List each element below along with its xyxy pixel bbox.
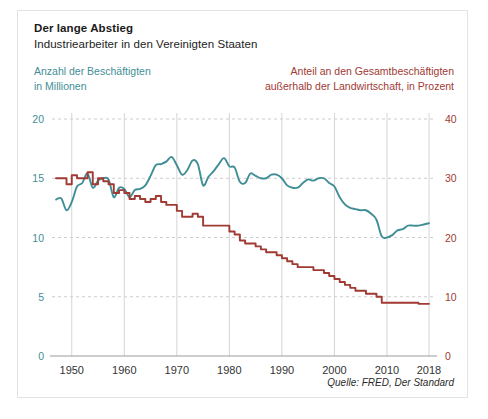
chart-subtitle: Industriearbeiter in den Vereinigten Sta…	[34, 38, 257, 50]
svg-text:2010: 2010	[375, 364, 399, 376]
left-axis-tick-labels: 05101520	[32, 113, 44, 362]
chart-title: Der lange Abstieg	[34, 22, 133, 34]
svg-text:10: 10	[445, 291, 457, 303]
svg-text:0: 0	[445, 350, 451, 362]
svg-text:20: 20	[32, 113, 44, 125]
x-axis-tick-labels: 19501960197019801990200020102018	[60, 364, 442, 376]
x-tick-marks	[72, 113, 429, 356]
svg-text:10: 10	[32, 232, 44, 244]
source-note: Quelle: FRED, Der Standard	[327, 377, 454, 388]
chart-figure-frame: Der lange Abstieg Industriearbeiter in d…	[17, 10, 468, 398]
svg-text:15: 15	[32, 172, 44, 184]
svg-text:20: 20	[445, 232, 457, 244]
legend-left-line2: in Millionen	[34, 79, 151, 94]
legend-right-line1: Anteil an den Gesamtbeschäftigten	[265, 64, 454, 79]
gridlines	[52, 119, 433, 297]
svg-text:1950: 1950	[60, 364, 84, 376]
series-lines	[56, 157, 429, 304]
legend-left-line1: Anzahl der Beschäftigten	[34, 64, 151, 79]
svg-text:1980: 1980	[217, 364, 241, 376]
right-axis-tick-labels: 010203040	[445, 113, 457, 362]
legend-left-axis: Anzahl der Beschäftigten in Millionen	[34, 64, 151, 94]
legend-right-axis: Anteil an den Gesamtbeschäftigten außerh…	[265, 64, 454, 94]
svg-text:1970: 1970	[165, 364, 189, 376]
svg-text:2000: 2000	[322, 364, 346, 376]
svg-text:2018: 2018	[417, 364, 441, 376]
svg-text:1960: 1960	[112, 364, 136, 376]
svg-text:30: 30	[445, 172, 457, 184]
svg-text:5: 5	[38, 291, 44, 303]
legend-right-line2: außerhalb der Landwirtschaft, in Prozent	[265, 79, 454, 94]
svg-text:0: 0	[38, 350, 44, 362]
svg-text:1990: 1990	[270, 364, 294, 376]
svg-text:40: 40	[445, 113, 457, 125]
